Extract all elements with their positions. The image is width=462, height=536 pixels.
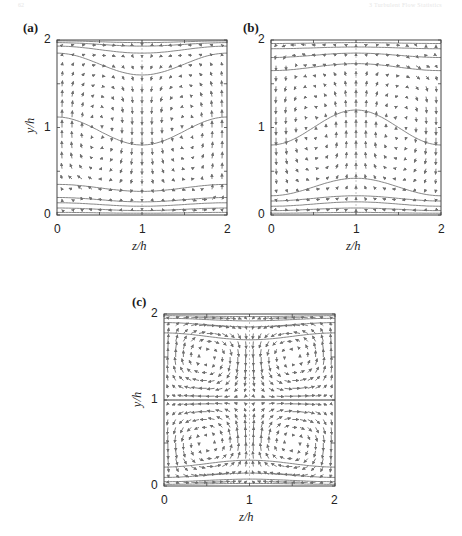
panel-c: (c) 2 1 0 0 1 2 z/h y/h xyxy=(0,0,462,536)
x-tick-0-c: 0 xyxy=(161,493,168,507)
x-axis-label-c: z/h xyxy=(239,510,254,525)
x-tick-2-c: 2 xyxy=(331,493,338,507)
quiver-plot-c xyxy=(0,0,462,536)
x-tick-1-c: 1 xyxy=(246,493,253,507)
y-tick-2-c: 2 xyxy=(151,306,158,320)
y-tick-1-c: 1 xyxy=(151,392,158,406)
y-tick-0-c: 0 xyxy=(151,478,158,492)
y-axis-label-c: y/h xyxy=(130,392,145,407)
